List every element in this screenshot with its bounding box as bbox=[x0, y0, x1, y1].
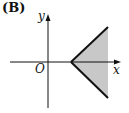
origin-label: O bbox=[35, 62, 45, 76]
graph-figure: (B) y x O bbox=[0, 0, 129, 113]
option-label: (B) bbox=[2, 0, 25, 15]
y-axis-label: y bbox=[38, 9, 45, 23]
y-axis-arrow-icon bbox=[46, 14, 51, 21]
coordinate-plane bbox=[0, 0, 129, 113]
x-axis-label: x bbox=[113, 63, 120, 77]
